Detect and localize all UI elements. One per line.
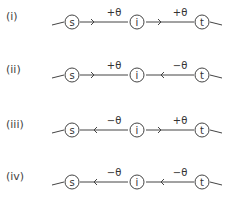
diagram-row: (iii)sit−θ+θ — [0, 112, 237, 142]
svg-text:i: i — [136, 125, 139, 136]
svg-text:s: s — [69, 17, 74, 28]
svg-text:t: t — [200, 177, 204, 188]
path-graphic: sit−θ+θ — [0, 112, 237, 142]
svg-text:t: t — [200, 125, 204, 136]
edge-label: +θ — [107, 60, 122, 71]
path-graphic: sit+θ−θ — [0, 57, 237, 87]
svg-text:s: s — [69, 125, 74, 136]
svg-text:t: t — [200, 70, 204, 81]
edge-label: −θ — [107, 167, 122, 178]
svg-text:s: s — [69, 70, 74, 81]
svg-text:i: i — [136, 70, 139, 81]
svg-text:i: i — [136, 177, 139, 188]
edge-label: +θ — [107, 7, 122, 18]
svg-text:t: t — [200, 17, 204, 28]
svg-text:s: s — [69, 177, 74, 188]
edge-label: −θ — [173, 167, 188, 178]
edge-label: −θ — [173, 60, 188, 71]
edge-label: +θ — [173, 115, 188, 126]
edge-label: −θ — [107, 115, 122, 126]
svg-text:i: i — [136, 17, 139, 28]
diagram-row: (ii)sit+θ−θ — [0, 57, 237, 87]
path-graphic: sit−θ−θ — [0, 164, 237, 194]
diagram-row: (i)sit+θ+θ — [0, 4, 237, 34]
path-graphic: sit+θ+θ — [0, 4, 237, 34]
diagram-row: (iv)sit−θ−θ — [0, 164, 237, 194]
edge-label: +θ — [173, 7, 188, 18]
